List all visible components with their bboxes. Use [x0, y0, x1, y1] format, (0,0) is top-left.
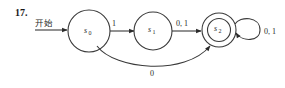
edge-s2-self-loop	[235, 19, 260, 40]
start-label: 开始	[35, 18, 53, 28]
problem-number: 17.	[15, 7, 28, 18]
state-s1-name: s	[148, 25, 151, 34]
edge-s1-s2-label: 0, 1	[176, 19, 188, 28]
edge-s2-self-label: 0, 1	[264, 27, 276, 36]
state-s0-sub: 0	[89, 30, 92, 36]
state-s2-name: s	[214, 24, 217, 33]
state-s2-sub: 2	[219, 28, 222, 34]
finite-state-automaton-diagram: 17. 开始 s 0 1 s 1 0, 1 s 2 0, 1 0	[0, 0, 285, 88]
edge-s0-s1-label: 1	[112, 19, 116, 28]
state-s0-name: s	[84, 26, 87, 35]
edge-s0-s2-label: 0	[150, 69, 154, 78]
state-s0: s 0	[68, 10, 110, 52]
state-s1-sub: 1	[153, 29, 156, 35]
state-s2-accepting: s 2	[202, 13, 236, 47]
state-s1: s 1	[134, 12, 172, 50]
